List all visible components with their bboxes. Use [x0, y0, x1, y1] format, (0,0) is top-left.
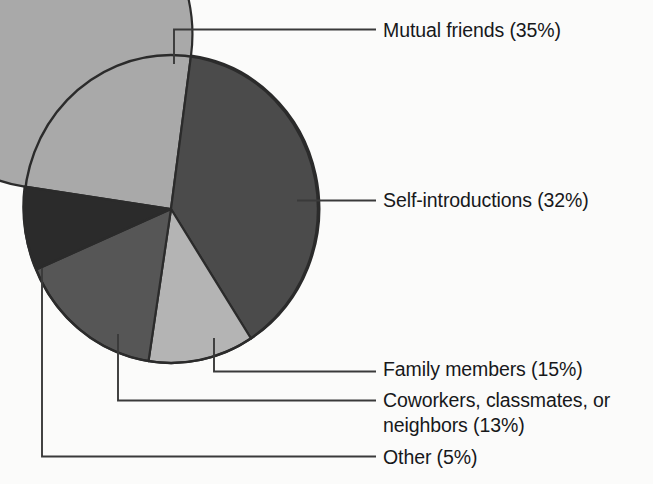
pie-label-coworkers: Coworkers, classmates, or neighbors (13%… [383, 388, 648, 438]
pie-label-self-introductions: Self-introductions (32%) [383, 188, 589, 213]
pie-slice-mutual-friends[interactable] [0, 0, 192, 209]
pie-label-other: Other (5%) [383, 445, 477, 470]
pie-label-family-members: Family members (15%) [383, 357, 583, 382]
pie-slices [0, 0, 319, 363]
pie-chart-figure: Mutual friends (35%) Self-introductions … [0, 0, 653, 484]
pie-label-mutual-friends: Mutual friends (35%) [383, 18, 561, 43]
